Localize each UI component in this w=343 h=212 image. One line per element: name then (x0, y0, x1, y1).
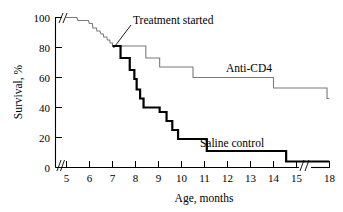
y-tick-label: 80 (39, 42, 51, 54)
x-axis-title: Age, months (175, 192, 234, 205)
series-line-anti-cd4 (65, 18, 329, 99)
x-tick-label: 18 (324, 172, 336, 184)
series-label-anti-cd4: Anti-CD4 (226, 62, 272, 74)
x-tick-label: 13 (245, 172, 257, 184)
annotation-treatment-started: Treatment started (133, 14, 214, 26)
y-tick-label: 20 (39, 132, 51, 144)
origin-break-icon (57, 160, 65, 171)
x-tick-label: 7 (110, 172, 116, 184)
series-label-saline-control: Saline control (200, 137, 264, 149)
x-tick-label: 15 (291, 172, 303, 184)
x-tick-label: 11 (199, 172, 210, 184)
x-tick-label: 9 (156, 172, 162, 184)
axis-break-marks (57, 13, 309, 171)
y-tick-label: 0 (45, 162, 51, 174)
survival-chart: 100 80 60 40 20 0 5 6 7 8 9 10 11 12 13 … (0, 0, 343, 212)
x-tick-label: 6 (87, 172, 93, 184)
y-axis-title: Survival, % (12, 64, 25, 119)
chart-svg: 100 80 60 40 20 0 5 6 7 8 9 10 11 12 13 … (0, 0, 343, 212)
x-tick-label: 10 (176, 172, 188, 184)
treatment-started-leader-line (114, 25, 132, 48)
x-tick-label: 8 (133, 172, 139, 184)
y-tick-marks (56, 18, 63, 168)
axis-group (56, 17, 331, 168)
x-tick-label: 12 (222, 172, 233, 184)
x-tick-label: 5 (64, 172, 70, 184)
y-tick-labels: 100 80 60 40 20 0 (34, 12, 51, 174)
x-tick-label: 14 (268, 172, 280, 184)
x-tick-labels: 5 6 7 8 9 10 11 12 13 14 15 18 (64, 172, 336, 184)
y-tick-label: 60 (39, 72, 51, 84)
y-tick-label: 40 (39, 102, 51, 114)
y-tick-label: 100 (34, 12, 51, 24)
